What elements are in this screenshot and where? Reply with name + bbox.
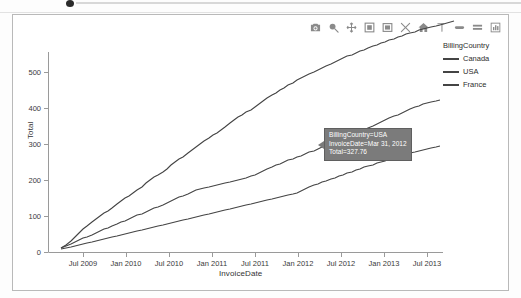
y-axis-title: Total — [26, 122, 35, 139]
tooltip-line-total: Total=327.76 — [329, 148, 407, 157]
x-axis-title: InvoiceDate — [219, 269, 262, 278]
y-tick-marks — [44, 73, 49, 253]
y-tick-label: 100 — [15, 212, 41, 221]
legend-item-usa[interactable]: USA — [443, 67, 507, 76]
hover-tooltip: BillingCountry=USA InvoiceDate=Mar 31, 2… — [324, 128, 412, 161]
legend-swatch-canada — [443, 58, 459, 60]
scroll-artifact-bullet — [66, 0, 74, 7]
y-tick-label: 200 — [15, 176, 41, 185]
y-tick-label: 500 — [15, 68, 41, 77]
legend-title: BillingCountry — [443, 41, 507, 50]
screenshot-root: 0 100 200 300 400 500 Jul 2009 Jan 2010 … — [0, 0, 521, 298]
legend-item-france[interactable]: France — [443, 80, 507, 89]
legend-connector — [440, 21, 454, 25]
scroll-artifact-rule — [76, 2, 521, 4]
line-chart[interactable]: 0 100 200 300 400 500 Jul 2009 Jan 2010 … — [13, 15, 510, 292]
legend-label-usa: USA — [463, 67, 478, 76]
x-tick-label: Jul 2013 — [402, 259, 452, 268]
legend-label-france: France — [463, 80, 486, 89]
chart-legend[interactable]: BillingCountry Canada USA France — [443, 41, 507, 93]
legend-label-canada: Canada — [463, 54, 489, 63]
tooltip-line-date: InvoiceDate=Mar 31, 2012 — [329, 140, 407, 149]
plot-card: 0 100 200 300 400 500 Jul 2009 Jan 2010 … — [12, 14, 509, 291]
legend-item-canada[interactable]: Canada — [443, 54, 507, 63]
y-tick-label: 300 — [15, 140, 41, 149]
legend-swatch-usa — [443, 71, 459, 73]
tooltip-line-country: BillingCountry=USA — [329, 131, 407, 140]
legend-swatch-france — [443, 84, 459, 86]
y-tick-label: 400 — [15, 104, 41, 113]
x-tick-marks — [84, 253, 428, 258]
scroll-artifact-rule-secondary — [0, 12, 521, 13]
series-line-canada — [61, 100, 440, 248]
series-line-france — [61, 146, 440, 249]
y-tick-label: 0 — [15, 248, 41, 257]
chart-svg — [13, 15, 510, 292]
